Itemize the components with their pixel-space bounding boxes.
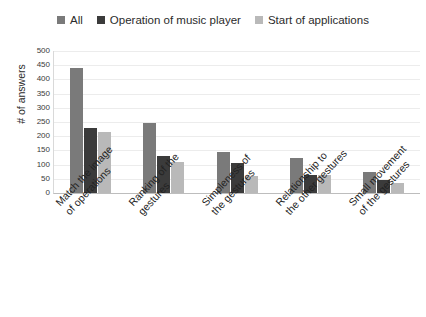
y-axis-tick-50: 50 bbox=[24, 175, 50, 183]
y-axis-tick-200: 200 bbox=[24, 132, 50, 140]
y-axis-tick-350: 350 bbox=[24, 90, 50, 98]
y-axis-tick-400: 400 bbox=[24, 75, 50, 83]
x-axis-label-slot: Relationship tothe other gestures bbox=[273, 196, 347, 308]
x-axis-label-slot: Simpleness ofthe gestures bbox=[199, 196, 273, 308]
x-axis-label-slot: Small movementof the gestures bbox=[346, 196, 420, 308]
y-axis-tick-150: 150 bbox=[24, 146, 50, 154]
y-axis-tick-0: 0 bbox=[24, 189, 50, 197]
bar-chart: # of answers 500450400350300250200150100… bbox=[0, 0, 426, 317]
x-axis-tick-labels: Match the imageof operationsRanking of t… bbox=[53, 196, 419, 311]
x-axis-label-slot: Match the imageof operations bbox=[53, 196, 127, 308]
y-axis-tick-labels: 500450400350300250200150100500 bbox=[24, 46, 50, 194]
y-axis-tick-100: 100 bbox=[24, 161, 50, 169]
y-axis-tick-500: 500 bbox=[24, 47, 50, 55]
x-axis-label-slot: Ranking of thegestures bbox=[126, 196, 200, 308]
y-axis-tick-300: 300 bbox=[24, 104, 50, 112]
y-axis-tick-250: 250 bbox=[24, 118, 50, 126]
y-axis-tick-450: 450 bbox=[24, 61, 50, 69]
